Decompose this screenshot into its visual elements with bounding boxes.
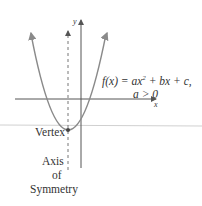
parabola-right-arrow xyxy=(105,33,107,38)
axis-label-line2: of xyxy=(52,170,62,182)
equation-prefix: f(x) = ax xyxy=(102,75,142,87)
divider-line xyxy=(0,125,202,126)
parabola-left-arrow xyxy=(31,33,32,38)
y-axis-label: y xyxy=(73,18,77,26)
leading-coefficient-condition: a > 0 xyxy=(133,89,158,101)
diagram-canvas xyxy=(0,0,202,206)
axis-label-line3: Symmetry xyxy=(30,184,78,196)
vertex-point xyxy=(66,128,70,132)
function-equation: f(x) = ax2 + bx + c, xyxy=(102,75,192,88)
x-axis-label: x xyxy=(154,101,158,109)
quadratic-diagram: y x f(x) = ax2 + bx + c, a > 0 Vertex Ax… xyxy=(0,0,202,206)
vertex-label: Vertex xyxy=(35,127,65,139)
axis-label-line1: Axis xyxy=(42,156,64,168)
equation-suffix: + bx + c, xyxy=(146,75,192,87)
